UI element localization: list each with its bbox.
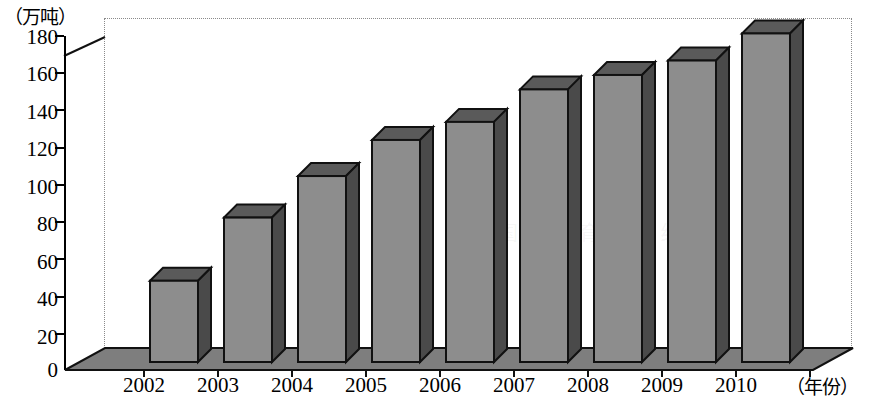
bar-2010[interactable] <box>742 20 803 362</box>
y-tick-80 <box>55 221 64 223</box>
bar-2007[interactable] <box>520 76 581 362</box>
bar-2009[interactable] <box>668 48 729 362</box>
bars-svg <box>64 18 854 370</box>
y-tick-60 <box>55 258 64 260</box>
y-tick-label-180: 180 <box>27 27 59 48</box>
y-tick-label-40: 40 <box>37 289 58 310</box>
x-tick-label-2009: 2009 <box>622 374 702 396</box>
y-axis-tick-labels: 180 160 140 120 100 80 60 40 20 0 <box>0 0 58 402</box>
x-tick-label-2008: 2008 <box>548 374 628 396</box>
y-tick-180 <box>55 35 64 37</box>
x-tick-label-2007: 2007 <box>474 374 554 396</box>
y-tick-label-160: 160 <box>27 64 59 85</box>
bar-2008[interactable] <box>594 62 655 362</box>
y-tick-label-80: 80 <box>37 214 58 235</box>
bar-2003[interactable] <box>224 205 285 362</box>
y-tick-120 <box>55 147 64 149</box>
x-tick-label-2003: 2003 <box>178 374 258 396</box>
x-tick-label-2005: 2005 <box>326 374 406 396</box>
plot-area: 中 国 教 育 在 线 <box>64 18 854 370</box>
bar-2002[interactable] <box>150 268 211 362</box>
bar-2004[interactable] <box>298 163 359 362</box>
y-tick-160 <box>55 72 64 74</box>
bar-series <box>64 18 854 370</box>
y-tick-20 <box>55 333 64 335</box>
y-tick-label-60: 60 <box>37 252 58 273</box>
y-tick-label-20: 20 <box>37 327 58 348</box>
y-tick-label-120: 120 <box>27 139 59 160</box>
chart-figure: （万吨） （年份） 180 160 140 120 100 80 60 40 2… <box>0 0 872 402</box>
x-tick-label-2004: 2004 <box>252 374 332 396</box>
y-tick-label-140: 140 <box>27 102 59 123</box>
x-tick-label-2002: 2002 <box>104 374 184 396</box>
y-tick-100 <box>55 184 64 186</box>
x-axis-tick-labels: 2002 2003 2004 2005 2006 2007 2008 2009 … <box>0 374 872 402</box>
bar-2005[interactable] <box>372 127 433 362</box>
y-tick-label-100: 100 <box>27 177 59 198</box>
y-tick-140 <box>55 109 64 111</box>
x-tick-label-2010: 2010 <box>696 374 776 396</box>
x-tick-label-2006: 2006 <box>400 374 480 396</box>
y-tick-40 <box>55 296 64 298</box>
bar-2006[interactable] <box>446 109 507 362</box>
